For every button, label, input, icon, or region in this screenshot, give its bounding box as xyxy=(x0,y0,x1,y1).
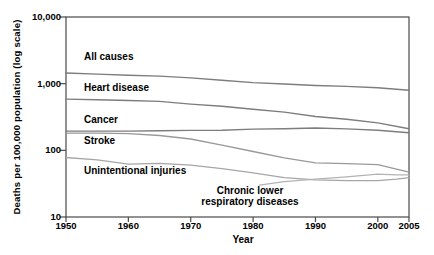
y-axis-title: Deaths per 100,000 population (log scale… xyxy=(11,19,22,214)
x-tick-label: 2005 xyxy=(398,220,419,231)
y-tick-label: 100 xyxy=(11,144,61,155)
series-label-heart-disease: Heart disease xyxy=(84,82,149,93)
y-tick-label: 10,000 xyxy=(11,11,61,22)
x-axis-title: Year xyxy=(232,234,253,245)
series-label-chronic-lower-respiratory-diseases: Chronic lower respiratory diseases xyxy=(191,185,309,207)
x-tick-label: 2000 xyxy=(367,220,388,231)
x-tick-label: 1950 xyxy=(55,220,76,231)
x-tick-label: 1980 xyxy=(243,220,264,231)
x-tick-label: 1970 xyxy=(180,220,201,231)
x-tick-label: 1990 xyxy=(305,220,326,231)
series-label-cancer: Cancer xyxy=(84,114,118,125)
series-label-unintentional-injuries: Unintentional injuries xyxy=(84,165,186,176)
series-line-cancer xyxy=(66,128,409,133)
y-tick-label: 10 xyxy=(11,211,61,222)
chart-figure: Deaths per 100,000 population (log scale… xyxy=(0,0,434,255)
chart-canvas xyxy=(0,0,434,255)
x-tick-label: 1960 xyxy=(118,220,139,231)
series-label-stroke: Stroke xyxy=(84,135,115,146)
series-label-all-causes: All causes xyxy=(84,51,133,62)
y-tick-label: 1,000 xyxy=(11,78,61,89)
